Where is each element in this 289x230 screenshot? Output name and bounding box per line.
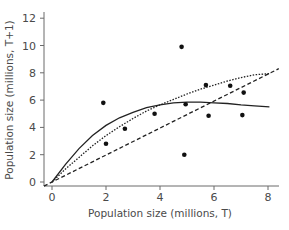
data-point bbox=[204, 83, 209, 88]
solid-curve bbox=[52, 102, 269, 182]
x-ticks: 02468 bbox=[49, 186, 272, 204]
data-point bbox=[182, 152, 187, 157]
data-point bbox=[228, 83, 233, 88]
y-tick-label: 8 bbox=[29, 67, 36, 80]
y-ticks: 024681012 bbox=[22, 12, 44, 189]
x-axis-title: Population size (millions, T) bbox=[88, 207, 232, 219]
y-tick-label: 2 bbox=[29, 149, 36, 162]
x-tick-label: 4 bbox=[157, 191, 164, 204]
data-point bbox=[241, 90, 246, 95]
y-tick-label: 6 bbox=[29, 94, 36, 107]
data-point bbox=[101, 101, 106, 106]
x-tick-label: 8 bbox=[265, 191, 272, 204]
data-point bbox=[240, 113, 245, 118]
model-curves bbox=[44, 69, 279, 186]
x-tick-label: 2 bbox=[103, 191, 110, 204]
data-point bbox=[152, 111, 157, 116]
data-point bbox=[104, 141, 109, 146]
population-scatter-chart: 024681012 02468 Population size (million… bbox=[0, 0, 289, 230]
data-point bbox=[183, 102, 188, 107]
data-point bbox=[123, 126, 128, 131]
x-tick-label: 6 bbox=[211, 191, 218, 204]
data-point bbox=[179, 45, 184, 50]
y-tick-label: 4 bbox=[29, 121, 36, 134]
x-tick-label: 0 bbox=[49, 191, 56, 204]
y-tick-label: 0 bbox=[29, 176, 36, 189]
dashed-line bbox=[44, 69, 279, 186]
y-tick-label: 12 bbox=[22, 12, 36, 25]
axes: 024681012 02468 bbox=[22, 12, 279, 204]
data-points bbox=[101, 45, 246, 157]
y-axis-title: Population size (millions, T+1) bbox=[3, 20, 15, 179]
data-point bbox=[206, 113, 211, 118]
y-tick-label: 10 bbox=[22, 40, 36, 53]
